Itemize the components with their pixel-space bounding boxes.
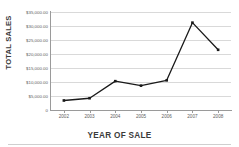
data-point-marker xyxy=(114,80,117,83)
data-point-marker xyxy=(191,21,194,24)
x-tick-mark xyxy=(141,110,142,113)
x-tick-mark xyxy=(90,110,91,113)
x-tick-label: 2008 xyxy=(203,114,233,119)
x-tick-mark xyxy=(64,110,65,113)
x-tick-mark xyxy=(167,110,168,113)
bottom-divider xyxy=(8,144,231,145)
x-tick-mark xyxy=(115,110,116,113)
data-series-line xyxy=(0,0,239,147)
line-chart-figure: TOTAL SALES 0$5,000.00$10,000.00$15,000.… xyxy=(0,0,239,147)
data-point-marker xyxy=(165,79,168,82)
data-point-marker xyxy=(63,99,66,102)
x-tick-mark xyxy=(218,110,219,113)
data-point-marker xyxy=(217,49,220,52)
x-tick-mark xyxy=(192,110,193,113)
x-axis-title: YEAR OF SALE xyxy=(0,131,239,140)
data-point-marker xyxy=(140,84,143,87)
data-point-marker xyxy=(88,97,91,100)
